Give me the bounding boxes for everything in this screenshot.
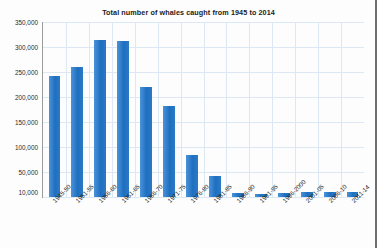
bar <box>49 76 61 198</box>
y-axis-tick-label: 150,000 <box>2 119 38 126</box>
bar-series <box>43 22 364 197</box>
x-axis-labels: 1945-501951-551956-601961-651966-701971-… <box>42 199 363 247</box>
y-axis-tick-label: 50,000 <box>2 169 38 176</box>
y-axis-tick-label: 350,000 <box>2 19 38 26</box>
horizontal-gridline <box>43 197 364 198</box>
y-axis-tick-label: 10,000 <box>2 189 38 196</box>
bar <box>163 106 175 198</box>
bar <box>71 67 83 197</box>
chart-container: Total number of whales caught from 1945 … <box>0 0 377 248</box>
bar <box>140 87 152 197</box>
bar <box>94 40 106 198</box>
y-axis-tick-label: 100,000 <box>2 144 38 151</box>
plot-area <box>42 22 364 198</box>
y-axis-tick-label: 250,000 <box>2 69 38 76</box>
chart-title: Total number of whales caught from 1945 … <box>0 8 377 17</box>
y-axis-tick-label: 200,000 <box>2 94 38 101</box>
bar <box>117 41 129 198</box>
y-axis-tick-label: 300,000 <box>2 44 38 51</box>
